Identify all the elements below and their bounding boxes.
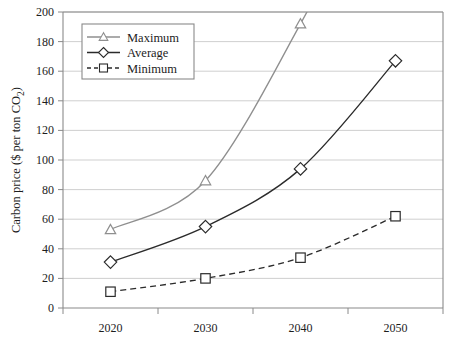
y-tick-label: 160 xyxy=(36,64,54,78)
y-tick-label: 100 xyxy=(36,153,54,167)
y-tick-label: 120 xyxy=(36,123,54,137)
data-point-marker-square xyxy=(296,253,305,262)
data-point-marker-square xyxy=(106,287,115,296)
data-point-marker-square xyxy=(391,212,400,221)
chart-canvas: 020406080100120140160180200 202020302040… xyxy=(0,0,456,337)
legend-marker-square xyxy=(100,64,108,72)
carbon-price-line-chart: 020406080100120140160180200 202020302040… xyxy=(0,0,456,337)
data-point-marker-square xyxy=(201,274,210,283)
y-tick-label: 40 xyxy=(42,242,54,256)
legend-label: Average xyxy=(127,46,169,60)
x-tick-label: 2040 xyxy=(289,321,313,335)
chart-background xyxy=(0,0,456,337)
legend-label: Minimum xyxy=(127,62,177,76)
x-tick-label: 2050 xyxy=(384,321,408,335)
y-tick-label: 80 xyxy=(42,183,54,197)
y-tick-label: 0 xyxy=(48,301,54,315)
legend-label: Maximum xyxy=(127,31,179,45)
y-tick-label: 200 xyxy=(36,5,54,19)
x-tick-label: 2030 xyxy=(194,321,218,335)
y-tick-label: 20 xyxy=(42,271,54,285)
chart-legend: MaximumAverageMinimum xyxy=(82,24,194,79)
y-tick-label: 180 xyxy=(36,35,54,49)
y-tick-label: 60 xyxy=(42,212,54,226)
y-tick-label: 140 xyxy=(36,94,54,108)
x-tick-label: 2020 xyxy=(99,321,123,335)
